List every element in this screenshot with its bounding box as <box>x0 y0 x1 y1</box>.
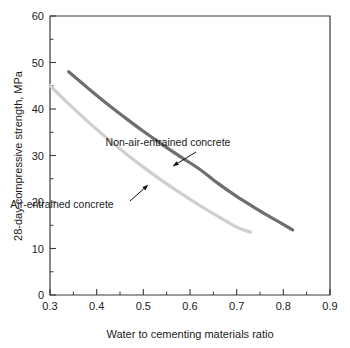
chart-canvas: 0.30.40.50.60.70.80.9 0102030405060 Wate… <box>0 0 350 348</box>
y-axis-title: 28-day compressive strength, MPa <box>12 70 24 241</box>
y-tick-label: 50 <box>32 57 44 69</box>
series-label-text: Air-entrained concrete <box>10 198 113 210</box>
x-tick-label: 0.8 <box>276 300 291 312</box>
y-tick-label: 0 <box>38 289 44 301</box>
x-tick-label: 0.9 <box>322 300 337 312</box>
x-axis-title: Water to cementing materials ratio <box>106 328 273 340</box>
chart-background <box>0 0 350 348</box>
x-tick-label: 0.5 <box>136 300 151 312</box>
x-tick-label: 0.4 <box>89 300 104 312</box>
chart-figure: 0.30.40.50.60.70.80.9 0102030405060 Wate… <box>0 0 350 348</box>
series-label-text: Non-air-entrained concrete <box>106 136 231 148</box>
y-tick-label: 30 <box>32 150 44 162</box>
y-tick-label: 60 <box>32 10 44 22</box>
y-tick-label: 10 <box>32 243 44 255</box>
x-tick-label: 0.7 <box>229 300 244 312</box>
y-tick-label: 40 <box>32 103 44 115</box>
x-tick-label: 0.6 <box>182 300 197 312</box>
x-tick-label: 0.3 <box>42 300 57 312</box>
